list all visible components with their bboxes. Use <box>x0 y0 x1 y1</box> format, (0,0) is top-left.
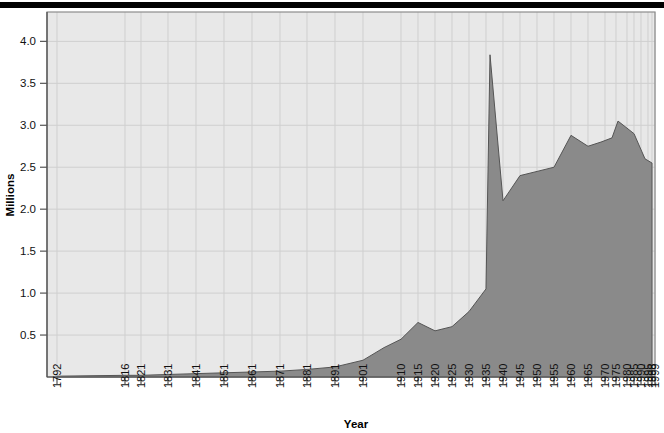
x-axis-title: Year <box>344 418 369 430</box>
x-axis-tick-label: 1945 <box>514 364 526 388</box>
x-axis-tick-label: 1861 <box>246 364 258 388</box>
x-axis-tick-label: 1831 <box>162 364 174 388</box>
x-axis-tick-label: 1871 <box>274 364 286 388</box>
x-axis-tick-label: 1935 <box>480 364 492 388</box>
x-axis-tick-label: 1999 <box>649 364 661 388</box>
x-axis-tick-label: 1925 <box>446 364 458 388</box>
x-axis-tick-label: 1965 <box>582 364 594 388</box>
x-axis-tick-label: 1910 <box>395 364 407 388</box>
x-axis-tick-label: 1792 <box>51 364 63 388</box>
x-axis-tick-label: 1891 <box>329 364 341 388</box>
x-axis-tick-label: 1955 <box>548 364 560 388</box>
y-axis-tick-label: 0.5 <box>20 329 36 341</box>
area-chart-plot: 0.51.01.52.02.53.03.54.0 179218161821183… <box>0 0 664 433</box>
y-axis-tick-label: 3.5 <box>20 77 36 89</box>
x-axis-tick-label: 1960 <box>565 364 577 388</box>
x-axis-tick-label: 1915 <box>412 364 424 388</box>
y-axis: 0.51.01.52.02.53.03.54.0 <box>20 35 47 341</box>
x-axis-tick-label: 1940 <box>497 364 509 388</box>
x-axis-tick-label: 1901 <box>357 364 369 388</box>
x-axis-tick-label: 1920 <box>429 364 441 388</box>
y-axis-tick-label: 4.0 <box>20 35 36 47</box>
x-axis-tick-label: 1950 <box>531 364 543 388</box>
x-axis-tick-label: 1930 <box>463 364 475 388</box>
y-axis-tick-label: 3.0 <box>20 119 36 131</box>
x-axis-tick-label: 1841 <box>190 364 202 388</box>
y-axis-tick-label: 1.0 <box>20 287 36 299</box>
x-axis-tick-label: 1881 <box>301 364 313 388</box>
x-axis-tick-label: 1821 <box>135 364 147 388</box>
y-axis-tick-label: 1.5 <box>20 245 36 257</box>
chart-container: 0.51.01.52.02.53.03.54.0 179218161821183… <box>0 0 664 433</box>
y-axis-tick-label: 2.5 <box>20 161 36 173</box>
y-axis-title: Millions <box>4 174 16 217</box>
x-axis-tick-label: 1851 <box>218 364 230 388</box>
y-axis-tick-label: 2.0 <box>20 203 36 215</box>
x-axis-tick-label: 1816 <box>119 364 131 388</box>
